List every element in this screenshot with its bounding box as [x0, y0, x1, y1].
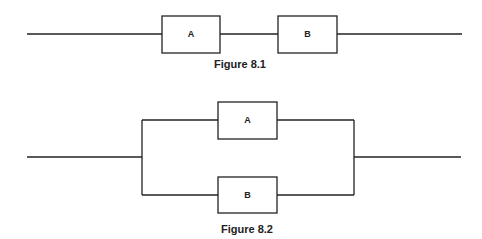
block-a-label: A	[188, 29, 195, 39]
figure-series: A B Figure 8.1	[27, 16, 462, 70]
block-b-label: B	[304, 29, 311, 39]
figure-caption: Figure 8.1	[214, 58, 266, 70]
figure-caption: Figure 8.2	[221, 223, 273, 235]
reliability-diagrams: A B Figure 8.1 A B Figure 8.2	[0, 0, 482, 239]
block-a-label: A	[244, 115, 251, 125]
figure-parallel: A B Figure 8.2	[27, 102, 461, 235]
block-b-label: B	[244, 190, 251, 200]
